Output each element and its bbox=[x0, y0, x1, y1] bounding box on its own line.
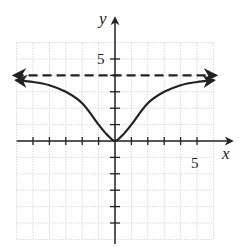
y-tick-label-5: 5 bbox=[97, 51, 105, 67]
x-axis-label: x bbox=[221, 144, 230, 163]
y-axis-label: y bbox=[97, 9, 107, 28]
x-tick-label-5: 5 bbox=[191, 155, 199, 171]
function-graph: y x 5 5 bbox=[0, 0, 245, 247]
axes bbox=[17, 18, 232, 244]
